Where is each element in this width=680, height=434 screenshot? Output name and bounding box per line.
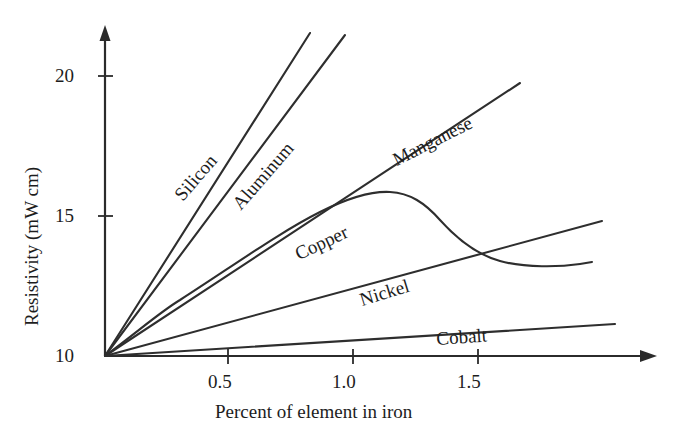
x-tick-label-0point5: 0.5 — [208, 372, 232, 391]
x-axis-arrow-icon — [640, 350, 657, 362]
curve-label-cobalt: Cobalt — [436, 326, 488, 348]
series-line-aluminum — [105, 35, 345, 356]
series-line-nickel — [105, 221, 602, 356]
series-line-copper — [105, 192, 592, 356]
y-tick-label-20: 20 — [55, 66, 74, 85]
y-tick-label-15: 15 — [55, 206, 74, 225]
series-line-silicon — [105, 33, 310, 356]
y-axis-title: Resistivity (mW cm) — [22, 167, 41, 326]
y-axis-arrow-icon — [100, 25, 111, 41]
resistivity-chart-figure: 20 15 10 0.5 1.0 1.5 Resistivity (mW cm)… — [0, 0, 680, 434]
y-tick-label-10: 10 — [55, 346, 74, 365]
plot-area — [0, 0, 680, 434]
series-line-cobalt — [105, 324, 615, 356]
x-tick-label-1point0: 1.0 — [332, 372, 356, 391]
x-axis-title: Percent of element in iron — [215, 402, 412, 421]
x-tick-label-1point5: 1.5 — [457, 372, 481, 391]
